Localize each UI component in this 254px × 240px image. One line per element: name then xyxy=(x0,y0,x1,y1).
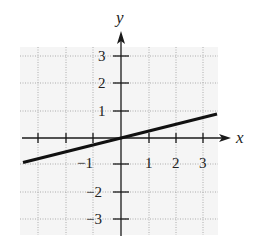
x-tick-label-1: 1 xyxy=(145,155,153,171)
y-tick-label-neg2: −2 xyxy=(86,184,102,200)
plot-area xyxy=(20,47,218,235)
y-tick-label-1: 1 xyxy=(98,103,106,119)
x-tick-label-3: 3 xyxy=(199,155,207,171)
x-tick-label-2: 2 xyxy=(172,155,180,171)
y-tick-label-neg3: −3 xyxy=(86,211,102,227)
y-tick-label-3: 3 xyxy=(98,48,106,64)
y-tick-label-2: 2 xyxy=(98,75,106,91)
x-axis-label: x xyxy=(235,128,244,147)
x-tick-label-neg1: −1 xyxy=(77,155,93,171)
y-axis-label: y xyxy=(114,8,124,27)
chart-canvas: y x 3 2 1 −2 −3 −1 1 2 3 xyxy=(0,0,254,240)
